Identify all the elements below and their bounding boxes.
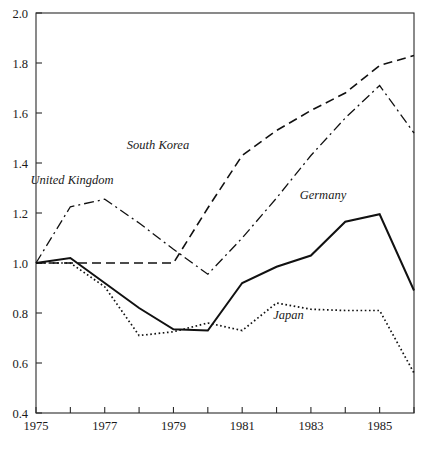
chart-background [0,0,425,451]
x-tick-label-1983: 1983 [298,419,323,433]
series-label-south-korea: South Korea [127,138,189,152]
series-label-united-kingdom: United Kingdom [31,173,114,187]
x-tick-label-1985: 1985 [367,419,392,433]
y-tick-label-1-4: 1.4 [12,157,28,171]
y-tick-label-0-6: 0.6 [12,357,28,371]
x-tick-label-1981: 1981 [230,419,255,433]
series-label-japan: Japan [273,308,304,322]
x-tick-label-1977: 1977 [92,419,117,433]
y-tick-label-0-4: 0.4 [12,407,28,421]
x-tick-label-1975: 1975 [24,419,49,433]
y-tick-label-2-0: 2.0 [12,7,28,21]
chart-canvas: 197519771979198119831985 0.40.60.81.01.2… [0,0,425,451]
y-tick-label-1-8: 1.8 [12,57,28,71]
line-chart: 197519771979198119831985 0.40.60.81.01.2… [0,0,425,451]
x-tick-label-1979: 1979 [161,419,186,433]
y-tick-label-1-2: 1.2 [12,207,28,221]
y-tick-label-0-8: 0.8 [12,307,28,321]
y-tick-label-1-0: 1.0 [12,257,28,271]
y-tick-label-1-6: 1.6 [12,107,28,121]
y-axis-tick-labels: 0.40.60.81.01.21.41.61.82.0 [12,7,28,421]
series-label-germany: Germany [300,188,347,202]
